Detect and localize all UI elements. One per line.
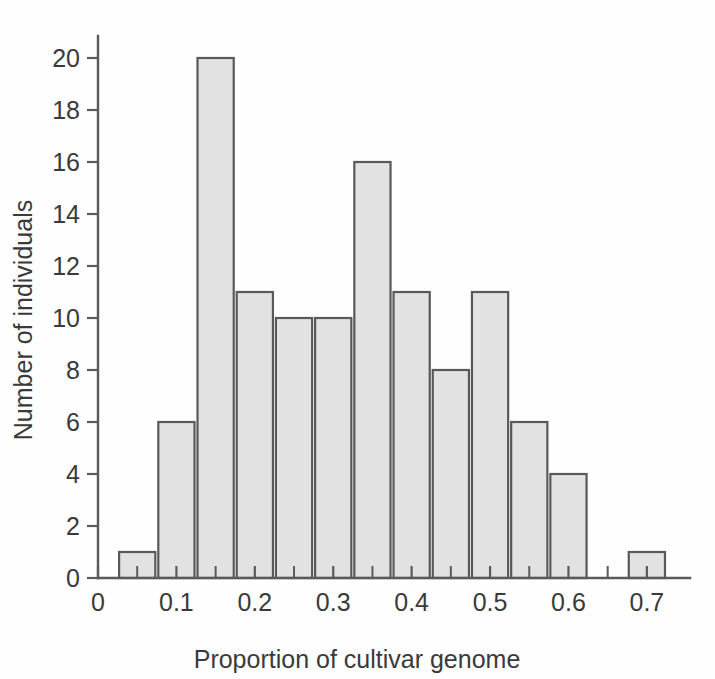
bar bbox=[276, 318, 312, 578]
x-tick-label-0.7: 0.7 bbox=[629, 588, 664, 616]
bar-rect-0.25 bbox=[276, 318, 312, 578]
y-axis-title: Number of individuals bbox=[9, 200, 37, 440]
y-tick-label-10: 10 bbox=[52, 304, 80, 332]
bar-rect-0.45 bbox=[433, 370, 469, 578]
y-tick-label-0: 0 bbox=[66, 564, 80, 592]
y-tick-label-14: 14 bbox=[52, 200, 80, 228]
bar-rect-0.30 bbox=[315, 318, 351, 578]
x-tick-label-0: 0 bbox=[91, 588, 105, 616]
histogram-figure: 02468101214161820 00.10.20.30.40.50.60.7… bbox=[0, 0, 715, 679]
x-axis-title: Proportion of cultivar genome bbox=[194, 645, 521, 673]
bar bbox=[354, 162, 390, 578]
bar bbox=[158, 422, 194, 578]
x-tick-label-0.4: 0.4 bbox=[394, 588, 429, 616]
bar-rect-0.10 bbox=[158, 422, 194, 578]
histogram-plot: 02468101214161820 00.10.20.30.40.50.60.7… bbox=[0, 0, 715, 679]
bar-rect-0.40 bbox=[394, 292, 430, 578]
y-tick-label-8: 8 bbox=[66, 356, 80, 384]
bar bbox=[433, 370, 469, 578]
y-tick-label-4: 4 bbox=[66, 460, 80, 488]
bar-rect-0.60 bbox=[550, 474, 586, 578]
bar-rect-0.20 bbox=[237, 292, 273, 578]
bar bbox=[550, 474, 586, 578]
bar-rect-0.55 bbox=[511, 422, 547, 578]
y-tick-label-18: 18 bbox=[52, 96, 80, 124]
y-tick-label-20: 20 bbox=[52, 44, 80, 72]
bar bbox=[472, 292, 508, 578]
bar bbox=[198, 58, 234, 578]
x-tick-label-0.1: 0.1 bbox=[159, 588, 194, 616]
bar bbox=[511, 422, 547, 578]
bar bbox=[237, 292, 273, 578]
y-tick-label-16: 16 bbox=[52, 148, 80, 176]
x-tick-label-0.2: 0.2 bbox=[237, 588, 272, 616]
bar bbox=[315, 318, 351, 578]
y-tick-label-12: 12 bbox=[52, 252, 80, 280]
x-tick-label-0.5: 0.5 bbox=[473, 588, 508, 616]
bar-rect-0.50 bbox=[472, 292, 508, 578]
x-tick-label-0.3: 0.3 bbox=[316, 588, 351, 616]
bar bbox=[394, 292, 430, 578]
x-tick-label-0.6: 0.6 bbox=[551, 588, 586, 616]
y-tick-label-2: 2 bbox=[66, 512, 80, 540]
y-tick-label-6: 6 bbox=[66, 408, 80, 436]
bar-rect-0.15 bbox=[198, 58, 234, 578]
bar-rect-0.35 bbox=[354, 162, 390, 578]
